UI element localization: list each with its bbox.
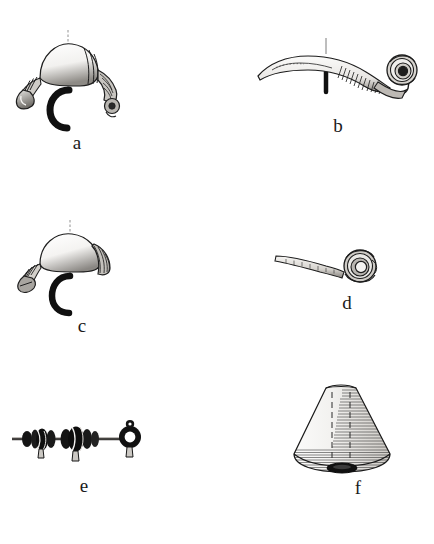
leech-bow-fibula-drawing — [14, 218, 144, 313]
spiral-coil-head — [387, 55, 417, 85]
pin-shaft — [275, 256, 344, 278]
figure-f — [282, 382, 402, 477]
fibula-foot-terminal — [16, 90, 34, 109]
conical-vessel-spindle-whorl-drawing — [282, 382, 402, 477]
pendant-centre — [72, 451, 79, 461]
figure-b — [250, 30, 420, 120]
bead-cluster-centre — [61, 427, 100, 452]
spiral-disc-head — [344, 250, 377, 282]
figure-d — [272, 238, 392, 298]
elongated-fibula-with-spiral-coil-drawing — [250, 30, 420, 120]
cross-section-profile-mark — [50, 90, 69, 128]
figure-label-f: f — [338, 478, 378, 497]
figure-c — [14, 218, 144, 313]
figure-e — [8, 418, 153, 473]
figure-a — [10, 28, 150, 128]
figure-label-a: a — [57, 133, 97, 152]
bead-cluster-left — [22, 429, 56, 451]
leech-bow-body — [40, 234, 100, 272]
ring-pendant-right — [119, 420, 141, 457]
artifact-plate: a — [0, 0, 434, 544]
bow-fibula-with-ribbed-bands-drawing — [10, 28, 150, 128]
pendant-left — [38, 449, 44, 458]
fibula-catchplate-inner — [109, 103, 115, 109]
figure-label-d: d — [327, 293, 367, 312]
cone-base-aperture-highlight — [333, 465, 351, 469]
cross-section-profile-mark — [52, 276, 70, 313]
figure-label-e: e — [64, 476, 104, 495]
pin-with-spiral-head-drawing — [272, 238, 392, 298]
figure-label-b: b — [318, 116, 358, 135]
bead-string-with-pendants-drawing — [8, 418, 153, 473]
figure-label-c: c — [62, 316, 102, 335]
